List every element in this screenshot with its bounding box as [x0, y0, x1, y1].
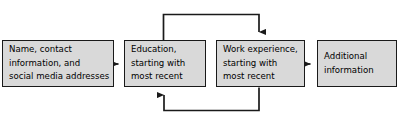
flow-node-contact-line-2: information, and	[3, 57, 113, 71]
connector-education-to-work-top	[164, 15, 260, 41]
flow-node-education-line-2: starting with	[125, 57, 205, 71]
flow-node-additional-line-2: information	[318, 64, 396, 78]
flow-node-education-line-1: Education,	[125, 43, 205, 57]
flow-node-work-line-3: most recent	[217, 70, 304, 84]
flow-node-work-experience: Work experience, starting with most rece…	[216, 40, 305, 87]
flow-node-work-line-2: starting with	[217, 57, 304, 71]
flow-node-education-line-3: most recent	[125, 70, 205, 84]
flow-node-work-line-1: Work experience,	[217, 43, 304, 57]
flow-node-additional-information: Additional information	[317, 40, 397, 87]
flow-node-additional-line-1: Additional	[318, 50, 396, 64]
flow-node-contact: Name, contact information, and social me…	[2, 40, 114, 87]
flow-node-contact-line-3: social media addresses	[3, 70, 113, 84]
flow-node-contact-line-1: Name, contact	[3, 43, 113, 57]
connector-work-to-education-bottom	[164, 88, 259, 111]
flowchart-diagram: Name, contact information, and social me…	[0, 0, 401, 121]
flow-node-education: Education, starting with most recent	[124, 40, 206, 87]
